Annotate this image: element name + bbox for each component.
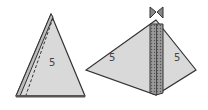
right-kite-piece: 5 5 [86, 20, 196, 95]
right-piece-right-label: 5 [174, 52, 180, 63]
right-piece-left-label: 5 [109, 52, 115, 63]
origami-diagram: 5 5 5 [0, 0, 208, 110]
bow-tie-icon [150, 7, 163, 18]
left-triangle-piece: 5 [16, 14, 85, 98]
left-triangle-label: 5 [49, 57, 55, 68]
